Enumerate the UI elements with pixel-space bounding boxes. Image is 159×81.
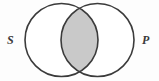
venn-diagram-figure: S P [0,0,159,81]
circle-label-s: S [7,34,14,46]
circle-label-p: P [142,34,149,46]
venn-diagram-svg [0,0,159,81]
